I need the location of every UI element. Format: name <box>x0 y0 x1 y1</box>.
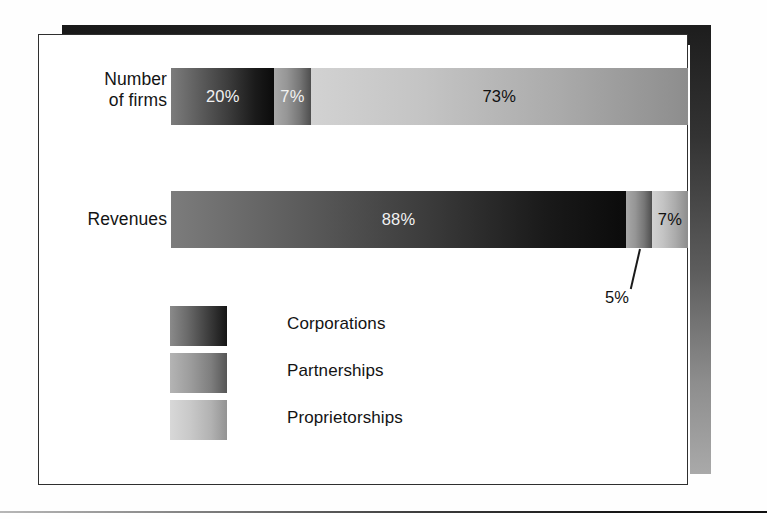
bar-row: Number of firms 20% 7% 73% <box>39 68 687 126</box>
bar-segment-value: 7% <box>658 210 682 229</box>
legend-swatch-icon <box>170 400 227 440</box>
legend-item-label: Proprietorships <box>287 408 403 428</box>
figure-scan: Number of firms 20% 7% 73% Revenues <box>0 0 767 519</box>
stacked-bar: 20% 7% 73% <box>171 68 688 125</box>
bar-segment-partnerships[interactable] <box>626 191 652 248</box>
bar-segment-value: 20% <box>206 87 240 106</box>
bar-row-label-line: of firms <box>49 90 167 111</box>
callout-leader-line <box>630 249 641 289</box>
bar-row-label: Number of firms <box>49 69 167 111</box>
bar-segment-corporations[interactable]: 88% <box>171 191 626 248</box>
bar-segment-proprietorships[interactable]: 7% <box>652 191 688 248</box>
bar-segment-partnerships[interactable]: 7% <box>274 68 310 125</box>
stacked-bar: 88% 7% <box>171 191 688 248</box>
bar-segment-proprietorships[interactable]: 73% <box>311 68 688 125</box>
bar-segment-value: 73% <box>482 87 516 106</box>
bar-row-label-line: Revenues <box>49 209 167 230</box>
bar-segment-corporations[interactable]: 20% <box>171 68 274 125</box>
bar-row: Revenues 88% 7% <box>39 191 687 249</box>
bar-segment-value: 88% <box>382 210 416 229</box>
legend-swatch-icon <box>170 353 227 393</box>
callout-label: 5% <box>605 288 629 307</box>
legend-item-label: Corporations <box>287 314 386 334</box>
bar-row-label-line: Number <box>49 69 167 90</box>
chart-panel: Number of firms 20% 7% 73% Revenues <box>38 34 688 485</box>
panel-shadow-right <box>690 25 711 474</box>
legend-swatch-icon <box>170 306 227 346</box>
legend-item-label: Partnerships <box>287 361 384 381</box>
bar-segment-value: 7% <box>280 87 304 106</box>
bar-row-label: Revenues <box>49 209 167 230</box>
page-bottom-rule <box>0 511 767 513</box>
